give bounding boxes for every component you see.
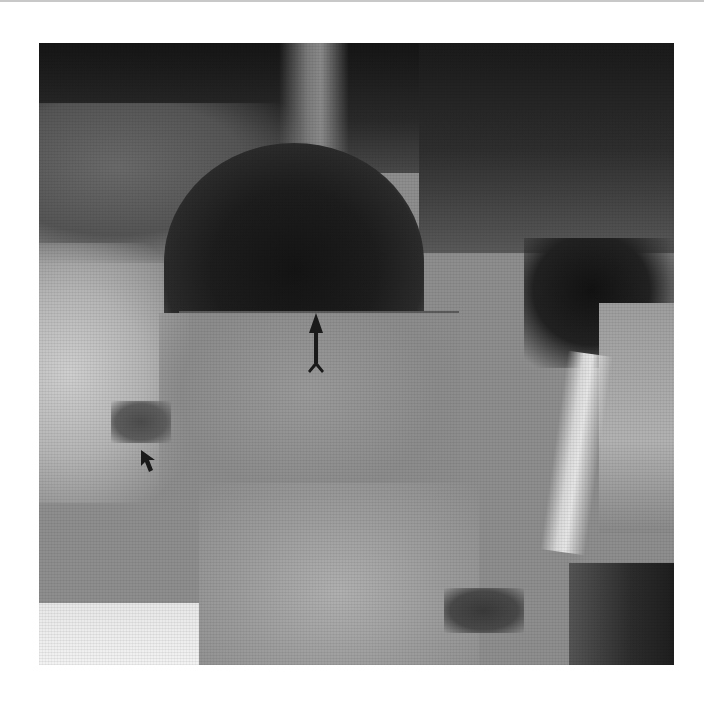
top-rule-divider — [0, 0, 704, 2]
vertical-arrow-icon — [304, 313, 328, 373]
radiograph-image — [39, 43, 674, 665]
film-grain-texture — [39, 43, 674, 665]
small-arrow-icon — [139, 450, 157, 472]
